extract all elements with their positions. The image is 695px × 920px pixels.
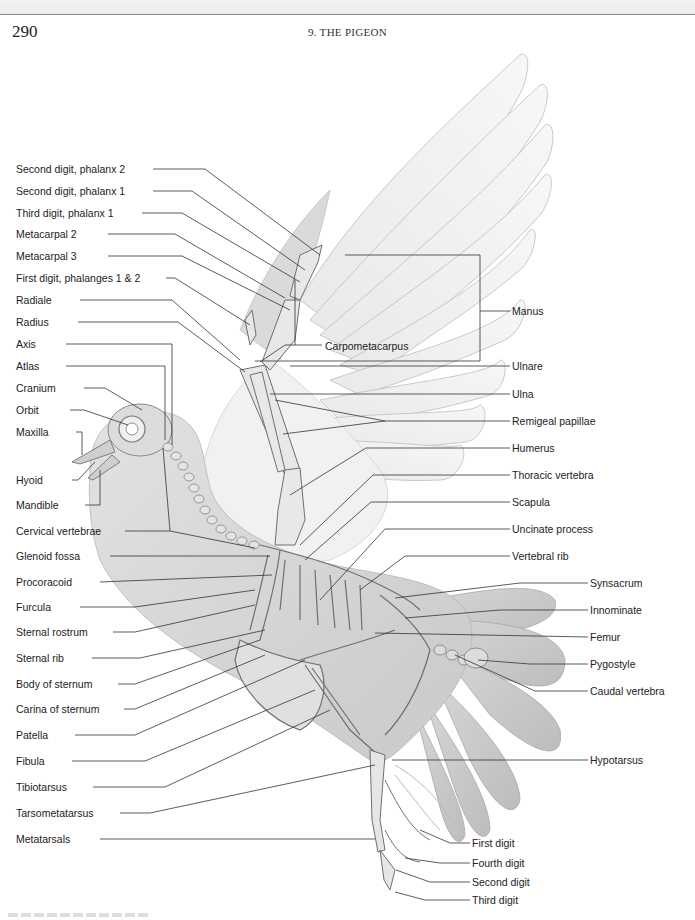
label-hypotarsus: Hypotarsus	[590, 754, 643, 766]
label-orbit: Orbit	[16, 404, 39, 416]
label-first-digit: First digit	[472, 837, 515, 849]
label-third-digit-phalanx-1: Third digit, phalanx 1	[16, 207, 113, 219]
label-furcula: Furcula	[16, 601, 51, 613]
label-sternal-rib: Sternal rib	[16, 652, 64, 664]
label-sternal-rostrum: Sternal rostrum	[16, 626, 88, 638]
label-cervical-vertebrae: Cervical vertebrae	[16, 525, 101, 537]
label-tibiotarsus: Tibiotarsus	[16, 781, 67, 793]
label-synsacrum: Synsacrum	[590, 577, 643, 589]
label-fibula: Fibula	[16, 755, 45, 767]
cut-off-caption	[8, 913, 148, 917]
label-radiale: Radiale	[16, 294, 52, 306]
pigeon-skeleton-illustration	[0, 0, 695, 920]
label-scapula: Scapula	[512, 496, 550, 508]
label-carina-of-sternum: Carina of sternum	[16, 703, 99, 715]
label-atlas: Atlas	[16, 360, 39, 372]
label-thoracic-vertebra: Thoracic vertebra	[512, 469, 594, 481]
label-maxilla: Maxilla	[16, 426, 49, 438]
label-ulnare: Ulnare	[512, 360, 543, 372]
label-vertebral-rib: Vertebral rib	[512, 550, 569, 562]
label-metacarpal-2: Metacarpal 2	[16, 228, 77, 240]
label-body-of-sternum: Body of sternum	[16, 678, 92, 690]
label-pygostyle: Pygostyle	[590, 658, 636, 670]
label-uncinate-process: Uncinate process	[512, 523, 593, 535]
label-mandible: Mandible	[16, 499, 59, 511]
label-carpometacarpus: Carpometacarpus	[325, 340, 408, 352]
label-third-digit: Third digit	[472, 894, 518, 906]
label-fourth-digit: Fourth digit	[472, 857, 525, 869]
label-metacarpal-3: Metacarpal 3	[16, 250, 77, 262]
label-radius: Radius	[16, 316, 49, 328]
label-manus: Manus	[512, 305, 544, 317]
label-second-digit-phalanx-1: Second digit, phalanx 1	[16, 185, 125, 197]
label-femur: Femur	[590, 631, 620, 643]
label-axis: Axis	[16, 338, 36, 350]
label-second-digit: Second digit	[472, 876, 530, 888]
label-innominate: Innominate	[590, 604, 642, 616]
label-caudal-vertebra: Caudal vertebra	[590, 685, 665, 697]
label-first-digit-phalanges: First digit, phalanges 1 & 2	[16, 272, 140, 284]
label-second-digit-phalanx-2: Second digit, phalanx 2	[16, 163, 125, 175]
label-glenoid-fossa: Glenoid fossa	[16, 550, 80, 562]
label-tarsometatarsus: Tarsometatarsus	[16, 807, 94, 819]
label-patella: Patella	[16, 729, 48, 741]
label-hyoid: Hyoid	[16, 474, 43, 486]
label-procoracoid: Procoracoid	[16, 576, 72, 588]
label-ulna: Ulna	[512, 388, 534, 400]
label-remigeal-papillae: Remigeal papillae	[512, 415, 595, 427]
label-cranium: Cranium	[16, 382, 56, 394]
label-metatarsals: Metatarsals	[16, 833, 70, 845]
label-humerus: Humerus	[512, 442, 555, 454]
